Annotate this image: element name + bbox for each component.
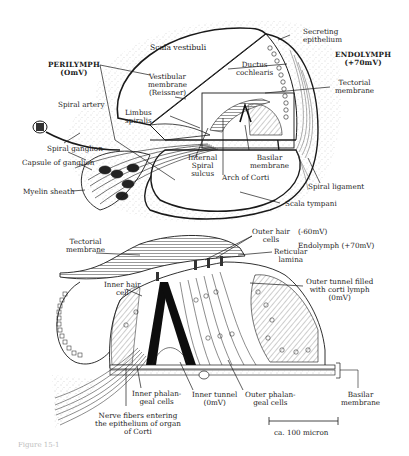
label-inner-hair-cell: Inner hair cell <box>104 281 141 297</box>
label-secreting-epithelium: Secreting epithelium <box>303 28 342 44</box>
label-outer-hair-cells-potential: (-60mV) <box>298 228 327 236</box>
label-nerve-fibers: Nerve fibers entering the epithelium of … <box>95 412 181 436</box>
label-capsule-of-ganglion: Capsule of ganglion <box>22 159 94 167</box>
label-outer-hair-cells: Outer hair cells <box>252 228 290 244</box>
label-basilar-membrane-lower: Basilar membrane <box>341 391 380 407</box>
label-myelin-sheath: Myelin sheath <box>23 188 75 196</box>
label-reticular-lamina: Reticular lamina <box>274 248 308 264</box>
figure-caption: Figure 15-1 <box>18 441 60 449</box>
label-endolymph: ENDOLYMPH (+70mV) <box>335 51 391 67</box>
label-internal-spiral-sulcus: Internal Spiral sulcus <box>188 154 217 178</box>
label-scala-tympani: Scala tympani <box>285 200 337 208</box>
label-limbus-spiralis: Limbus spiralis <box>125 109 152 125</box>
label-endolymph-lower: Endolymph (+70mV) <box>298 242 374 250</box>
label-outer-tunnel: Outer tunnel filled with corti lymph (0m… <box>306 278 373 302</box>
label-perilymph: PERILYMPH (OmV) <box>48 61 100 77</box>
label-basilar-membrane-upper: Basilar membrane <box>250 154 289 170</box>
label-inner-tunnel: Inner tunnel (0mV) <box>192 391 237 407</box>
label-scala-vestibuli: Scala vestibuli <box>150 44 206 52</box>
cochlea-figure: Scala vestibuli Secreting epithelium END… <box>0 0 409 456</box>
label-tectorial-membrane-upper: Tectorial membrane <box>335 79 374 95</box>
label-vestibular-membrane: Vestibular membrane (Reissner) <box>148 73 187 97</box>
scale-bar-label: ca. 100 micron <box>274 429 328 437</box>
label-outer-phalangeal-cells: Outer phalan- geal cells <box>245 391 296 407</box>
label-arch-of-corti: Arch of Corti <box>222 174 269 182</box>
label-spiral-ligament: Spiral ligament <box>308 183 364 191</box>
label-ductus-cochlearis: Ductus cochlearis <box>236 61 273 77</box>
label-inner-phalangeal-cells: Inner phalan- geal cells <box>132 390 181 406</box>
label-spiral-ganglion: Spiral ganglion <box>47 145 103 153</box>
label-tectorial-membrane-lower: Tectorial membrane <box>66 238 105 254</box>
label-spiral-artery: Spiral artery <box>58 101 105 109</box>
